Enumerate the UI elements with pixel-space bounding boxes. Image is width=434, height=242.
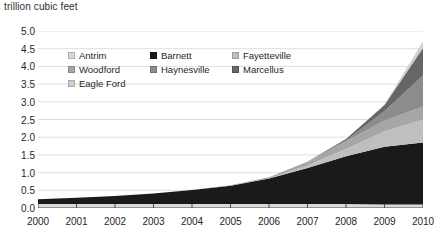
legend-row: AntrimBarnettFayetteville (68, 48, 314, 62)
legend-row: WoodfordHaynesvilleMarcellus (68, 62, 314, 76)
y-axis-tick-label: 3.5 (5, 79, 35, 90)
legend-label: Eagle Ford (79, 78, 125, 89)
x-axis-tick-label: 2007 (296, 216, 318, 227)
legend-item-antrim[interactable]: Antrim (68, 50, 150, 61)
x-axis-tick-label: 2003 (142, 216, 164, 227)
x-axis-tick-label: 2002 (104, 216, 126, 227)
y-axis: 0.00.51.01.52.02.53.03.54.04.55.0 (0, 0, 35, 242)
y-axis-tick-label: 1.0 (5, 167, 35, 178)
legend-swatch-icon (150, 52, 157, 59)
legend-label: Haynesville (161, 64, 210, 75)
y-axis-tick-label: 3.0 (5, 96, 35, 107)
legend-swatch-icon (68, 80, 75, 87)
legend-label: Fayetteville (243, 50, 291, 61)
legend-label: Barnett (161, 50, 192, 61)
legend-label: Woodford (79, 64, 120, 75)
area-series-barnett (38, 143, 423, 205)
legend-item-eagle-ford[interactable]: Eagle Ford (68, 78, 150, 89)
x-axis-tick-label: 2006 (258, 216, 280, 227)
x-axis-tick-label: 2000 (27, 216, 49, 227)
x-axis-tick-label: 2004 (181, 216, 203, 227)
legend-item-marcellus[interactable]: Marcellus (232, 64, 314, 75)
y-axis-tick-label: 0.5 (5, 185, 35, 196)
legend-item-woodford[interactable]: Woodford (68, 64, 150, 75)
y-axis-tick-label: 5.0 (5, 26, 35, 37)
x-axis-tick-label: 2008 (335, 216, 357, 227)
y-axis-tick-label: 2.5 (5, 114, 35, 125)
y-axis-tick-label: 0.0 (5, 203, 35, 214)
legend-item-haynesville[interactable]: Haynesville (150, 64, 232, 75)
legend-swatch-icon (232, 52, 239, 59)
legend-row: Eagle Ford (68, 76, 314, 90)
y-axis-tick-label: 4.0 (5, 61, 35, 72)
chart-legend: AntrimBarnettFayettevilleWoodfordHaynesv… (68, 48, 314, 90)
x-axis-tick-label: 2001 (65, 216, 87, 227)
legend-swatch-icon (68, 52, 75, 59)
legend-item-barnett[interactable]: Barnett (150, 50, 232, 61)
legend-label: Antrim (79, 50, 106, 61)
x-axis-tick-label: 2009 (373, 216, 395, 227)
legend-swatch-icon (68, 66, 75, 73)
legend-swatch-icon (232, 66, 239, 73)
x-axis-tick-label: 2005 (219, 216, 241, 227)
y-axis-tick-label: 1.5 (5, 149, 35, 160)
legend-item-fayetteville[interactable]: Fayetteville (232, 50, 314, 61)
y-axis-tick-label: 2.0 (5, 132, 35, 143)
y-axis-tick-label: 4.5 (5, 43, 35, 54)
legend-label: Marcellus (243, 64, 284, 75)
legend-swatch-icon (150, 66, 157, 73)
x-axis: 2000200120022003200420052006200720082009… (38, 210, 423, 234)
x-axis-tick-label: 2010 (412, 216, 434, 227)
